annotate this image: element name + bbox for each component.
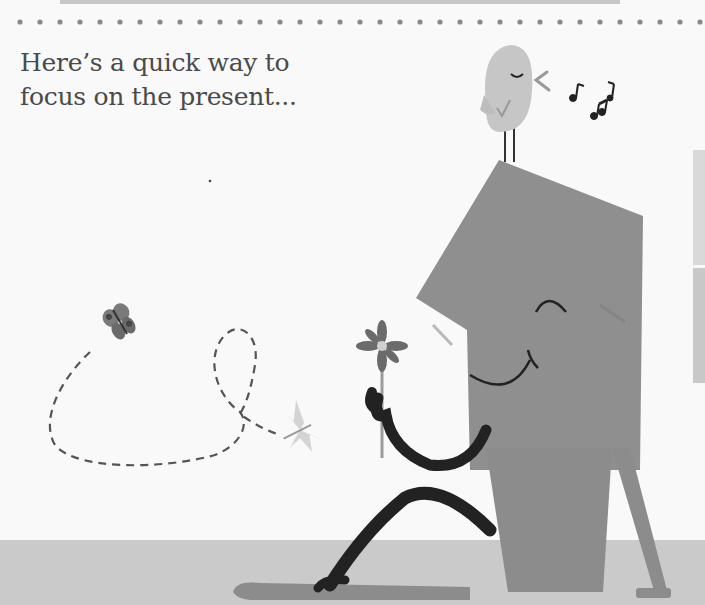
caption-line-2: focus on the present... [20, 80, 297, 114]
rectangle-character [233, 160, 671, 600]
caption: Here’s a quick way to focus on the prese… [20, 46, 297, 114]
music-notes-icon [570, 82, 615, 120]
bird-icon [480, 45, 549, 162]
heading-remnant [60, 0, 620, 4]
dashed-flight-path [50, 329, 280, 465]
side-panel [693, 150, 705, 383]
butterfly-light-icon [275, 395, 328, 458]
butterfly-dark-icon [99, 300, 140, 343]
dotted-divider [17, 19, 702, 24]
caption-line-1: Here’s a quick way to [20, 46, 297, 80]
illustration-page: Here’s a quick way to focus on the prese… [0, 0, 705, 605]
